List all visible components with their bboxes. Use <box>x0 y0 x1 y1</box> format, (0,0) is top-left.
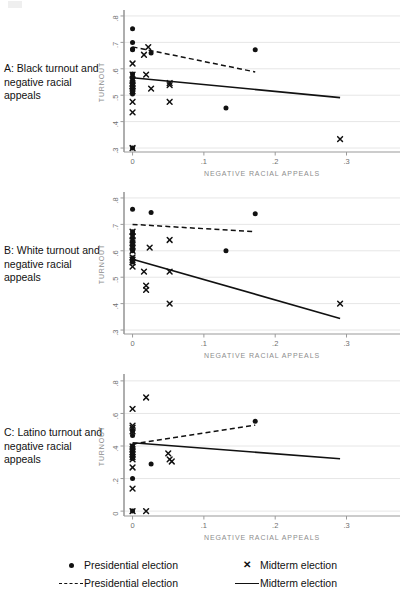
legend-cross-icon: ✕ <box>234 556 260 574</box>
data-point-midterm <box>144 72 149 77</box>
x-axis-title: NEGATIVE RACIAL APPEALS <box>204 170 320 177</box>
panel-a-plot: .3.4.5.6.7.80.1.2.3NEGATIVE RACIAL APPEA… <box>0 0 411 180</box>
y-tick-label: .7 <box>111 224 120 230</box>
data-point-midterm <box>167 99 172 104</box>
data-point-midterm <box>144 395 149 400</box>
data-point-midterm <box>167 238 172 243</box>
x-tick-label: 0 <box>130 521 134 530</box>
y-tick-label: .4 <box>111 121 120 127</box>
legend-label-presidential-points: Presidential election <box>84 559 234 571</box>
y-tick-label: .3 <box>111 330 120 336</box>
x-axis-title: NEGATIVE RACIAL APPEALS <box>204 534 320 541</box>
y-tick-label: .8 <box>111 380 120 386</box>
y-tick-label: 0 <box>111 512 120 516</box>
data-point-midterm <box>130 465 135 470</box>
y-axis-title: TURNOUT <box>98 426 105 467</box>
data-point-presidential <box>130 476 135 481</box>
x-tick-label: 0 <box>130 157 134 166</box>
data-point-presidential <box>149 50 154 55</box>
y-tick-label: .7 <box>111 42 120 48</box>
data-point-presidential <box>149 210 154 215</box>
fit-line-midterm <box>133 78 341 98</box>
legend-solid-line-icon <box>234 574 260 592</box>
data-point-presidential <box>253 211 258 216</box>
data-point-presidential <box>130 40 135 45</box>
data-point-midterm <box>130 264 135 269</box>
x-tick-label: .3 <box>343 157 349 166</box>
x-tick-label: .2 <box>272 339 278 348</box>
data-point-presidential <box>253 419 258 424</box>
data-point-midterm <box>146 45 151 50</box>
x-tick-label: .1 <box>201 521 207 530</box>
panel-c: C: Latino turnout and negative racial ap… <box>0 364 411 544</box>
data-point-midterm <box>169 459 174 464</box>
x-axis-title: NEGATIVE RACIAL APPEALS <box>204 352 320 359</box>
figure-root: A: Black turnout and negative racial app… <box>0 0 411 595</box>
y-tick-label: .5 <box>111 95 120 101</box>
data-point-presidential <box>223 105 228 110</box>
x-tick-label: .1 <box>201 157 207 166</box>
panel-b-plot: .3.4.5.6.7.80.1.2.3NEGATIVE RACIAL APPEA… <box>0 182 411 362</box>
fit-line-midterm <box>133 259 341 318</box>
data-point-presidential <box>130 26 135 31</box>
x-tick-label: .2 <box>272 157 278 166</box>
legend-label-midterm-fit: Midterm election <box>260 577 410 589</box>
data-point-presidential <box>223 248 228 253</box>
y-tick-label: .4 <box>111 303 120 309</box>
data-point-midterm <box>338 137 343 142</box>
y-tick-label: .6 <box>111 250 120 256</box>
fit-line-midterm <box>133 443 341 459</box>
panel-a: A: Black turnout and negative racial app… <box>0 0 411 180</box>
panel-b: B: White turnout and negative racial app… <box>0 182 411 362</box>
y-tick-label: .6 <box>111 413 120 419</box>
fit-line-presidential <box>133 224 256 231</box>
y-tick-label: .8 <box>111 15 120 21</box>
y-tick-label: .8 <box>111 197 120 203</box>
y-axis-title: TURNOUT <box>98 62 105 103</box>
figure-legend: Presidential election ✕ Midterm election… <box>0 550 411 595</box>
data-point-midterm <box>149 86 154 91</box>
x-tick-label: .1 <box>201 339 207 348</box>
y-tick-label: .2 <box>111 478 120 484</box>
data-point-midterm <box>130 110 135 115</box>
data-point-midterm <box>130 486 135 491</box>
data-point-midterm <box>130 61 135 66</box>
data-point-midterm <box>144 287 149 292</box>
x-tick-label: 0 <box>130 339 134 348</box>
data-point-midterm <box>166 451 171 456</box>
data-point-midterm <box>130 99 135 104</box>
legend-dashed-line-icon <box>58 574 84 592</box>
data-point-midterm <box>130 406 135 411</box>
data-point-midterm <box>147 245 152 250</box>
y-tick-label: .6 <box>111 68 120 74</box>
legend-label-midterm-points: Midterm election <box>260 559 410 571</box>
legend-dot-icon <box>58 556 84 574</box>
panel-c-plot: 0.2.4.6.80.1.2.3NEGATIVE RACIAL APPEALST… <box>0 364 411 544</box>
data-point-midterm <box>142 52 147 57</box>
legend-label-presidential-fit: Presidential election <box>84 577 234 589</box>
y-axis-title: TURNOUT <box>98 244 105 285</box>
data-point-presidential <box>149 461 154 466</box>
data-point-presidential <box>130 207 135 212</box>
x-tick-label: .2 <box>272 521 278 530</box>
fit-line-presidential <box>133 425 256 444</box>
y-tick-label: .4 <box>111 445 120 451</box>
x-tick-label: .3 <box>343 339 349 348</box>
data-point-presidential <box>253 47 258 52</box>
y-tick-label: .5 <box>111 277 120 283</box>
data-point-presidential <box>130 47 135 52</box>
y-tick-label: .3 <box>111 148 120 154</box>
data-point-midterm <box>142 269 147 274</box>
x-tick-label: .3 <box>343 521 349 530</box>
